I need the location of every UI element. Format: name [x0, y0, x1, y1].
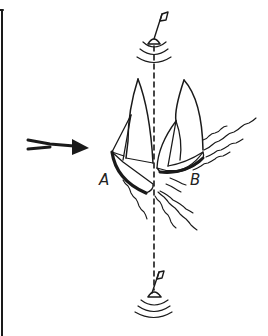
wind-arrow-icon: [28, 139, 89, 155]
boat-b-label: B: [190, 173, 200, 188]
frame-border: [0, 10, 3, 336]
bottom-buoy-icon: [135, 271, 172, 318]
boat-a: [112, 79, 153, 193]
wake-lines-b: [170, 118, 256, 185]
diagram: A B: [0, 0, 268, 336]
diagram-svg: [0, 0, 268, 336]
boat-a-label: A: [99, 173, 109, 188]
boat-b: [157, 80, 204, 173]
